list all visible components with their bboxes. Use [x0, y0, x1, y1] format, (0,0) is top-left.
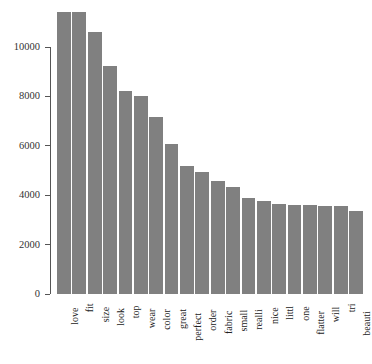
y-axis: 0200040006000800010000	[0, 0, 52, 364]
bar	[349, 211, 363, 294]
x-axis-label-cell: littl	[272, 299, 286, 361]
bar	[134, 96, 148, 294]
x-axis-label-cell: wear	[134, 299, 148, 361]
x-axis-label-cell: one	[288, 299, 302, 361]
y-axis-tick-mark	[45, 96, 50, 97]
bar	[119, 91, 133, 294]
bar	[303, 205, 317, 294]
x-axis-label-cell: fabric	[211, 299, 225, 361]
bar	[57, 12, 71, 294]
x-axis-label-cell: color	[149, 299, 163, 361]
y-axis-tick-mark	[45, 145, 50, 146]
x-axis-label: beauti	[356, 287, 367, 311]
bar	[103, 66, 117, 294]
y-axis-tick-mark	[45, 244, 50, 245]
bar	[226, 187, 240, 294]
x-axis-label-text: beauti	[361, 311, 372, 335]
plot-area	[57, 0, 363, 294]
y-axis-tick-label: 6000	[19, 139, 40, 152]
y-axis-tick-label: 8000	[19, 89, 40, 102]
x-axis-label-cell: size	[88, 299, 102, 361]
bar	[242, 198, 256, 294]
bar	[211, 181, 225, 294]
y-axis-tick-mark	[45, 294, 50, 295]
bar	[180, 166, 194, 294]
x-axis-label-cell: realli	[242, 299, 256, 361]
bar	[149, 117, 163, 294]
x-axis-label-cell: small	[226, 299, 240, 361]
y-axis-line	[50, 47, 51, 294]
x-axis-label-cell: great	[165, 299, 179, 361]
x-axis-label-cell: tri	[334, 299, 348, 361]
x-axis-label-cell: look	[103, 299, 117, 361]
x-axis-label-cell: perfect	[180, 299, 194, 361]
bar	[195, 172, 209, 294]
x-axis-label-cell: top	[119, 299, 133, 361]
bar	[72, 12, 86, 294]
y-axis-tick-mark	[45, 195, 50, 196]
x-axis-label-cell: love	[57, 299, 71, 361]
x-axis-label-cell: nice	[257, 299, 271, 361]
bar	[165, 144, 179, 294]
bar	[272, 204, 286, 294]
x-axis-labels: lovefitsizelooktopwearcolorgreatperfecto…	[57, 299, 363, 361]
y-axis-tick-label: 10000	[14, 40, 40, 53]
bar	[257, 201, 271, 294]
x-axis-label-cell: order	[195, 299, 209, 361]
x-axis-label-cell: fit	[72, 299, 86, 361]
bar	[334, 206, 348, 294]
x-axis-label-cell: will	[318, 299, 332, 361]
y-axis-tick-label: 4000	[19, 188, 40, 201]
bar	[88, 32, 102, 294]
x-axis-label-cell: beauti	[349, 299, 363, 361]
bar-series	[57, 0, 363, 294]
y-axis-tick-mark	[45, 47, 50, 48]
x-axis-label-cell: flatter	[303, 299, 317, 361]
y-axis-tick-label: 0	[35, 287, 40, 300]
bar	[318, 206, 332, 294]
y-axis-tick-label: 2000	[19, 238, 40, 251]
bar	[288, 205, 302, 294]
